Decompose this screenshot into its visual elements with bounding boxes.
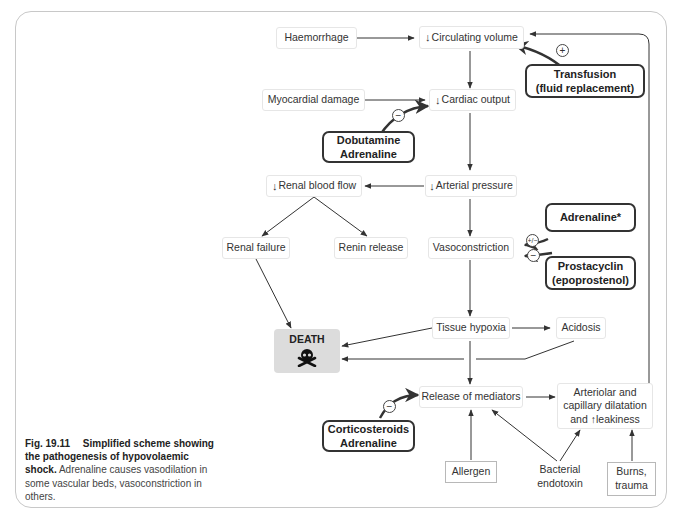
node-cardiac-output: ↓Cardiac output (429, 89, 516, 111)
node-acidosis: Acidosis (556, 317, 606, 339)
figure-label: Fig. 19.11 (25, 438, 70, 449)
decrease-arrow-icon: ↓ (429, 179, 435, 193)
node-circulating-volume: ↓Circulating volume (419, 26, 524, 49)
plus-minus-circle-icon: +/− (526, 234, 539, 247)
node-tissue-hypoxia: Tissue hypoxia (432, 317, 510, 339)
figure-caption: Fig. 19.11 Simplified scheme showing the… (25, 437, 215, 503)
node-burns-trauma: Burns, trauma (607, 462, 656, 496)
drug-transfusion: Transfusion (fluid replacement) (525, 64, 645, 98)
node-myocardial-damage: Myocardial damage (262, 89, 365, 111)
drug-adrenaline-star: Adrenaline* (545, 203, 636, 232)
minus-circle-icon: − (527, 249, 540, 262)
decrease-arrow-icon: ↓ (435, 93, 441, 107)
skull-crossbones-icon (296, 347, 318, 367)
node-renal-failure: Renal failure (222, 237, 290, 259)
minus-circle-icon: − (392, 109, 405, 122)
node-release-of-mediators: Release of mediators (419, 386, 523, 408)
node-allergen: Allergen (445, 461, 497, 483)
drug-corticosteroids-adrenaline: Corticosteroids Adrenaline (322, 420, 415, 452)
plus-circle-icon: + (556, 44, 569, 57)
node-arterial-pressure: ↓Arterial pressure (425, 175, 517, 197)
node-vasoconstriction: Vasoconstriction (428, 237, 514, 259)
node-renin-release: Renin release (334, 237, 408, 259)
node-renal-blood-flow: ↓Renal blood flow (266, 175, 362, 197)
drug-prostacyclin: Prostacyclin (epoprostenol) (545, 256, 636, 290)
drug-dobutamine-adrenaline: Dobutamine Adrenaline (322, 131, 415, 163)
node-haemorrhage: Haemorrhage (276, 27, 357, 49)
decrease-arrow-icon: ↓ (272, 179, 278, 193)
minus-circle-icon: − (383, 400, 396, 413)
node-death: DEATH (274, 329, 340, 373)
decrease-arrow-icon: ↓ (425, 30, 431, 44)
node-arteriolar-dilatation: Arteriolar and capillary dilatation and … (557, 383, 653, 429)
node-bacterial-endotoxin: Bacterial endotoxin (531, 462, 589, 492)
